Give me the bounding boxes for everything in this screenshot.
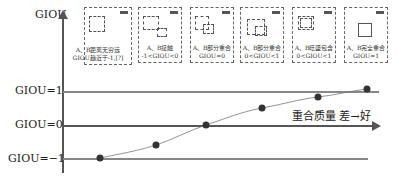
curve-point-3	[203, 122, 210, 129]
curve-point-2	[153, 142, 160, 149]
quality-curve	[0, 0, 399, 179]
curve-point-6	[364, 86, 371, 93]
curve-point-5	[315, 94, 322, 101]
curve-point-4	[259, 105, 266, 112]
curve-point-1	[97, 155, 104, 162]
